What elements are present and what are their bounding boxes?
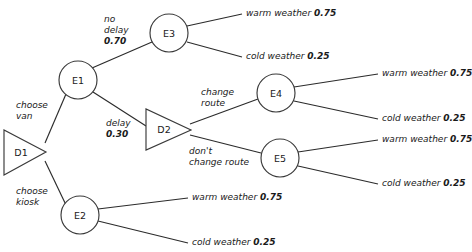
- dont-change-route-line1: don't: [189, 146, 249, 157]
- leaf-e2-cold-text: cold weather: [192, 237, 250, 247]
- node-d1-label: D1: [14, 147, 27, 158]
- branch-label-choose-van: choose van: [16, 100, 48, 122]
- choose-van-line2: van: [16, 111, 48, 122]
- branch-label-delay: delay 0.30: [106, 118, 131, 140]
- branch-label-change-route: change route: [201, 87, 234, 109]
- no-delay-line2: delay: [104, 25, 129, 36]
- leaf-e5-warm-text: warm weather: [382, 134, 447, 144]
- leaf-label-e5-warm: warm weather 0.75: [382, 134, 472, 145]
- dont-change-route-line2: change route: [189, 157, 249, 168]
- node-e1-label: E1: [72, 75, 84, 86]
- leaf-e5-cold-text: cold weather: [382, 178, 440, 188]
- leaf-e5-cold-prob: 0.25: [443, 178, 465, 188]
- leaf-label-e2-warm: warm weather 0.75: [192, 192, 282, 203]
- leaf-e2-warm-text: warm weather: [192, 192, 257, 202]
- decision-tree-canvas: D1 D2 E1 E2 E3 E4 E5: [0, 0, 472, 252]
- edge-e3-cold: [187, 42, 242, 57]
- leaf-e4-cold-text: cold weather: [382, 113, 440, 123]
- leaf-label-e5-cold: cold weather 0.25: [382, 178, 466, 189]
- leaf-label-e4-cold: cold weather 0.25: [382, 113, 466, 124]
- leaf-label-e3-warm: warm weather 0.75: [246, 8, 336, 19]
- edge-d1-e2: [45, 161, 66, 205]
- leaf-e3-cold-text: cold weather: [246, 51, 304, 61]
- leaf-e4-warm-prob: 0.75: [450, 68, 472, 78]
- edge-e3-warm: [187, 14, 242, 26]
- node-e5-label: E5: [274, 153, 286, 164]
- choose-kiosk-line1: choose: [16, 186, 48, 197]
- branch-label-no-delay: no delay 0.70: [104, 14, 129, 47]
- no-delay-prob: 0.70: [104, 36, 129, 47]
- leaf-e2-cold-prob: 0.25: [253, 237, 275, 247]
- node-e4-label: E4: [270, 88, 282, 99]
- change-route-line1: change: [201, 87, 234, 98]
- leaf-e3-cold-prob: 0.25: [307, 51, 329, 61]
- leaf-label-e2-cold: cold weather 0.25: [192, 237, 276, 248]
- delay-prob: 0.30: [106, 129, 131, 140]
- edge-e5-cold: [298, 166, 378, 184]
- leaf-label-e3-cold: cold weather 0.25: [246, 51, 330, 62]
- edge-d1-e1: [45, 94, 66, 143]
- edge-e4-warm: [294, 74, 378, 87]
- edge-e2-warm: [98, 198, 188, 209]
- decision-tree-diagram: D1 D2 E1 E2 E3 E4 E5 choose van choose k…: [0, 0, 472, 252]
- branch-label-dont-change-route: don't change route: [189, 146, 249, 168]
- leaf-e3-warm-prob: 0.75: [314, 8, 336, 18]
- node-d2-label: D2: [157, 124, 170, 135]
- no-delay-line1: no: [104, 14, 129, 25]
- leaf-e4-warm-text: warm weather: [382, 68, 447, 78]
- delay-line1: delay: [106, 118, 131, 129]
- leaf-e5-warm-prob: 0.75: [450, 134, 472, 144]
- change-route-line2: route: [201, 98, 234, 109]
- edge-e4-cold: [294, 101, 378, 119]
- leaf-label-e4-warm: warm weather 0.75: [382, 68, 472, 79]
- leaf-e2-warm-prob: 0.75: [260, 192, 282, 202]
- edge-e2-cold: [98, 221, 188, 243]
- choose-van-line1: choose: [16, 100, 48, 111]
- edge-e5-warm: [298, 140, 378, 152]
- branch-label-choose-kiosk: choose kiosk: [16, 186, 48, 208]
- choose-kiosk-line2: kiosk: [16, 197, 48, 208]
- leaf-e3-warm-text: warm weather: [246, 8, 311, 18]
- node-e3-label: E3: [163, 28, 175, 39]
- node-e2-label: E2: [74, 210, 86, 221]
- leaf-e4-cold-prob: 0.25: [443, 113, 465, 123]
